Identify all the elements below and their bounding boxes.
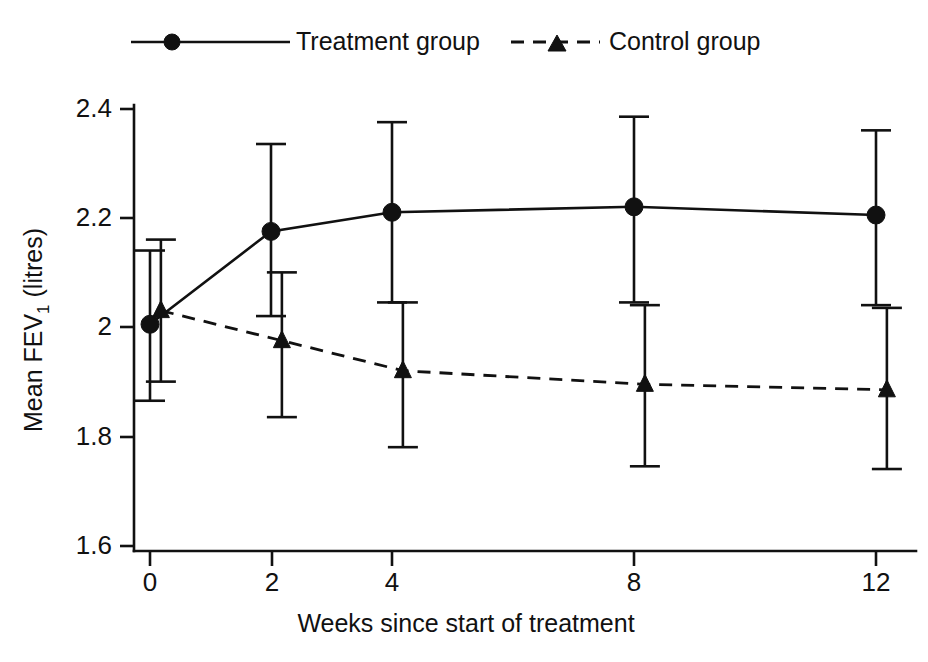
y-tick-label-4: 2.4 xyxy=(76,93,112,123)
y-axis-title-tail: (litres) xyxy=(19,228,47,304)
series-treatment xyxy=(135,117,891,401)
series-control xyxy=(146,240,902,469)
legend-label-treatment: Treatment group xyxy=(296,27,480,55)
data-point-circle-marker xyxy=(262,222,280,240)
chart-series-layer xyxy=(135,117,902,469)
chart-figure: Treatment group Control group 2.4 2.2 2 xyxy=(0,0,928,662)
x-tick-label-4: 12 xyxy=(862,567,891,597)
legend-entry-treatment[interactable]: Treatment group xyxy=(131,27,480,55)
y-axis-title-main: Mean FEV xyxy=(19,314,47,432)
series-line xyxy=(161,311,887,390)
series-line xyxy=(150,207,876,324)
x-tick-label-0: 0 xyxy=(143,567,157,597)
chart-axes: 2.4 2.2 2 1.8 1.6 0 2 4 8 12 xyxy=(76,93,916,597)
data-point-circle-marker xyxy=(867,206,885,224)
x-axis-title: Weeks since start of treatment xyxy=(297,609,634,637)
x-tick-label-1: 2 xyxy=(265,567,279,597)
legend-entry-control[interactable]: Control group xyxy=(511,27,760,55)
y-axis-title: Mean FEV1 (litres) xyxy=(19,228,53,432)
data-point-circle-marker xyxy=(383,203,401,221)
y-tick-label-2: 2 xyxy=(98,311,112,341)
legend-circle-marker-icon xyxy=(164,34,180,50)
y-axis-title-subscript: 1 xyxy=(34,304,53,313)
line-chart-plot: Treatment group Control group 2.4 2.2 2 xyxy=(0,0,928,662)
y-tick-label-3: 2.2 xyxy=(76,202,112,232)
chart-legend: Treatment group Control group xyxy=(131,27,760,55)
y-tick-label-1: 1.8 xyxy=(76,421,112,451)
legend-label-control: Control group xyxy=(609,27,760,55)
data-point-triangle-marker xyxy=(152,301,169,318)
x-tick-label-3: 8 xyxy=(627,567,641,597)
data-point-circle-marker xyxy=(625,198,643,216)
x-tick-label-2: 4 xyxy=(385,567,399,597)
y-tick-label-0: 1.6 xyxy=(76,530,112,560)
